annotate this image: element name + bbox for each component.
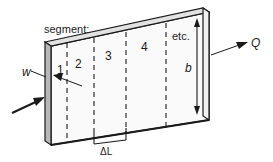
diagram-canvas: segment: 1 2 3 4 etc. w b ΔL Q (0, 0, 273, 162)
slab-segment-diagram: segment: 1 2 3 4 etc. w b ΔL Q (0, 0, 273, 162)
segment-title-label: segment: (44, 23, 89, 35)
outlet-flow-label: Q (251, 36, 260, 50)
outlet-flow-arrowhead (236, 42, 248, 49)
segment-label-1: 1 (57, 63, 64, 77)
inlet-flow-arrowhead (33, 97, 45, 106)
slab-right-edge-face (203, 8, 209, 120)
width-leader-line (31, 71, 46, 77)
outlet-flow-line (211, 44, 242, 55)
deltaL-span-line (94, 140, 126, 144)
segment-label-2: 2 (75, 57, 82, 71)
slab-left-edge-face (45, 42, 51, 145)
width-label: w (22, 65, 32, 79)
segment-label-etc: etc. (172, 30, 190, 42)
segment-label-3: 3 (105, 49, 112, 63)
height-label: b (185, 61, 192, 75)
segment-length-label: ΔL (100, 146, 113, 157)
segment-label-4: 4 (141, 40, 148, 54)
